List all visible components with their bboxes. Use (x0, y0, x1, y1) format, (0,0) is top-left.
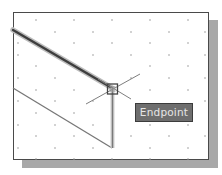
snap-tooltip: Endpoint (135, 103, 193, 122)
highlighted-line[interactable] (13, 30, 112, 88)
diagonal-line[interactable] (13, 88, 112, 148)
drawing-canvas[interactable] (0, 0, 222, 175)
